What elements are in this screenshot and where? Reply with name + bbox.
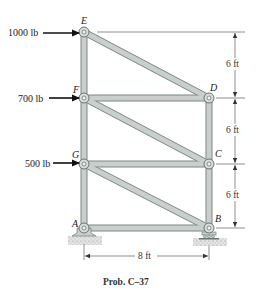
load-e: 1000 lb	[8, 27, 79, 38]
dim-label-cb: 6 ft	[226, 190, 239, 200]
load-label-500: 500 lb	[25, 158, 50, 169]
node-label-f: F	[72, 84, 80, 95]
node-label-b: B	[215, 213, 221, 224]
node-label-g: G	[72, 149, 79, 160]
node-label-c: C	[215, 148, 222, 159]
truss-members	[84, 32, 209, 228]
load-g: 500 lb	[25, 158, 79, 169]
truss-diagram: E F G A D C B 1000 lb 700 lb 500 lb 6 ft…	[0, 0, 260, 298]
load-label-700: 700 lb	[18, 93, 43, 104]
dim-label-ab: 8 ft	[138, 251, 151, 261]
dim-label-dc: 6 ft	[226, 125, 239, 135]
vertical-dimensions	[97, 32, 245, 228]
dim-label-ed: 6 ft	[226, 59, 239, 69]
load-label-1000: 1000 lb	[8, 27, 38, 38]
node-label-a: A	[71, 218, 79, 229]
problem-caption: Prob. C–37	[103, 277, 149, 287]
node-label-e: E	[80, 15, 87, 26]
ground-left	[68, 236, 102, 245]
node-label-d: D	[209, 82, 218, 93]
load-f: 700 lb	[18, 93, 79, 104]
